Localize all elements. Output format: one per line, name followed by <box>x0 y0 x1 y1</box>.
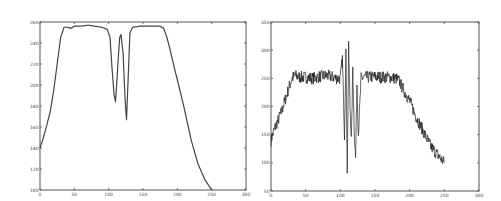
y-tick-label: 200 <box>261 104 270 109</box>
figure: 0501001502002503001001201401601802002202… <box>0 0 501 201</box>
y-tick-label: 180 <box>30 104 39 109</box>
y-tick-label: 100 <box>30 188 39 193</box>
right-ticks: 05010015020025030050100150200250300350 <box>261 20 484 199</box>
x-tick-label: 200 <box>405 193 414 198</box>
x-tick-label: 150 <box>371 193 380 198</box>
y-tick-label: 150 <box>261 132 270 137</box>
right-data-line <box>271 41 444 173</box>
x-tick-label: 150 <box>139 192 148 197</box>
y-tick-label: 260 <box>30 20 39 25</box>
x-tick-label: 300 <box>475 193 484 198</box>
x-tick-label: 50 <box>303 193 309 198</box>
y-tick-label: 160 <box>30 125 39 130</box>
x-tick-label: 0 <box>39 192 42 197</box>
x-tick-label: 0 <box>270 193 273 198</box>
y-tick-label: 100 <box>261 160 270 165</box>
y-tick-label: 300 <box>261 48 270 53</box>
y-tick-label: 350 <box>261 20 270 25</box>
y-tick-label: 140 <box>30 146 39 151</box>
y-tick-label: 220 <box>30 62 39 67</box>
x-tick-label: 300 <box>242 192 251 197</box>
x-tick-label: 250 <box>440 193 449 198</box>
y-tick-label: 200 <box>30 83 39 88</box>
left-axes-frame <box>40 22 246 190</box>
x-tick-label: 50 <box>71 192 77 197</box>
left-ticks: 0501001502002503001001201401601802002202… <box>30 20 251 198</box>
y-tick-label: 120 <box>30 167 39 172</box>
left-data-line <box>40 25 212 190</box>
y-tick-label: 250 <box>261 76 270 81</box>
x-tick-label: 100 <box>104 192 113 197</box>
x-tick-label: 250 <box>207 192 216 197</box>
x-tick-label: 200 <box>173 192 182 197</box>
y-tick-label: 50 <box>264 189 270 194</box>
y-tick-label: 240 <box>30 41 39 46</box>
right-axes-frame <box>271 22 479 191</box>
x-tick-label: 100 <box>336 193 345 198</box>
left-line-plot: 0501001502002503001001201401601802002202… <box>30 20 251 198</box>
right-line-plot: 05010015020025030050100150200250300350 <box>261 20 484 199</box>
